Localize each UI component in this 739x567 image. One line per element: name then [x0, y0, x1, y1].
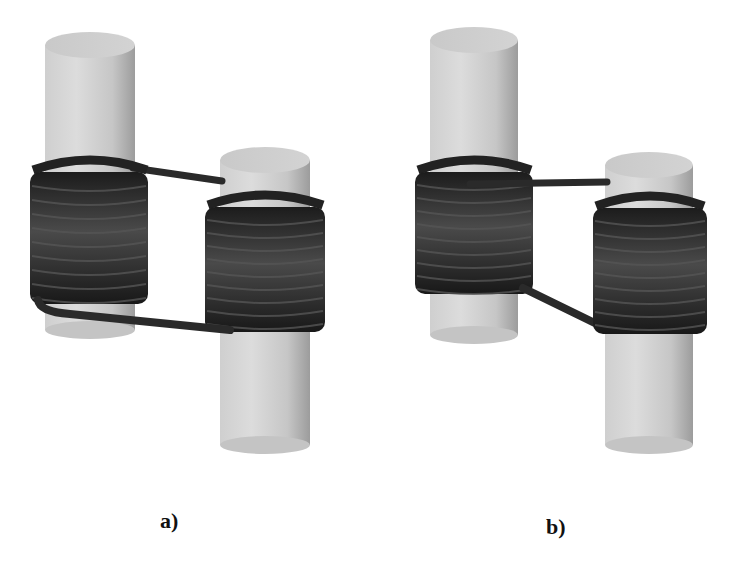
panel-label-b: b) [546, 514, 566, 540]
figure-canvas [0, 0, 739, 567]
lower-wire-b [523, 288, 605, 328]
panel-label-a: a) [160, 508, 178, 534]
panel-a [30, 32, 325, 454]
right-coil-a [205, 195, 325, 332]
panel-b [415, 27, 707, 454]
left-coil-a [30, 160, 148, 304]
upper-wire-b [470, 182, 607, 184]
right-coil-b [593, 196, 707, 334]
